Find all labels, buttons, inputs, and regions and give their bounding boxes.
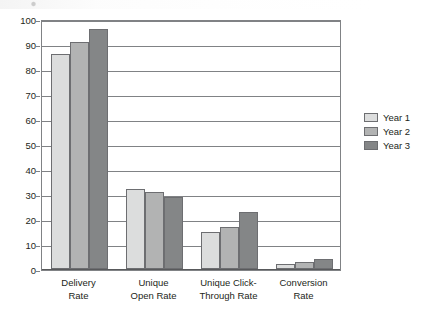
y-axis-tick-label: 10 — [2, 241, 36, 251]
legend-item-label: Year 3 — [383, 140, 410, 151]
y-axis-tick-mark — [36, 196, 40, 197]
y-axis-tick-mark — [36, 146, 40, 147]
y-axis-tick-label: 30 — [2, 191, 36, 201]
bar[interactable] — [145, 192, 164, 270]
bar-group — [126, 19, 183, 269]
bar[interactable] — [239, 212, 258, 270]
bar[interactable] — [314, 259, 333, 269]
scan-artifact — [0, 0, 439, 9]
bar[interactable] — [164, 197, 183, 270]
legend-item-label: Year 1 — [383, 112, 410, 123]
y-axis-tick-mark — [36, 271, 40, 272]
bar-chart-figure: 1009080706050403020100 DeliveryRateUniqu… — [0, 0, 439, 316]
bar[interactable] — [89, 29, 108, 269]
y-axis-tick-label: 100 — [2, 16, 36, 26]
y-axis-tick-label: 70 — [2, 91, 36, 101]
legend-swatch-icon — [364, 127, 378, 136]
bar[interactable] — [51, 54, 70, 269]
y-axis-tick-label: 20 — [2, 216, 36, 226]
bar-group — [276, 19, 333, 269]
y-axis-tick-label: 60 — [2, 116, 36, 126]
bar[interactable] — [126, 189, 145, 269]
bar[interactable] — [295, 262, 314, 270]
bar[interactable] — [220, 227, 239, 270]
y-axis-tick-labels: 1009080706050403020100 — [0, 20, 36, 271]
y-axis-tick-mark — [36, 121, 40, 122]
legend-item[interactable]: Year 3 — [364, 139, 436, 151]
x-axis-label-line: Rate — [258, 290, 349, 303]
legend-swatch-icon — [364, 141, 378, 150]
y-axis-tick-mark — [36, 46, 40, 47]
bar[interactable] — [70, 42, 89, 270]
y-axis-tick-mark — [36, 71, 40, 72]
bar-groups — [42, 21, 340, 270]
chart-legend: Year 1Year 2Year 3 — [364, 111, 436, 153]
legend-item-label: Year 2 — [383, 126, 410, 137]
legend-item[interactable]: Year 1 — [364, 111, 436, 123]
y-axis-tick-mark — [36, 96, 40, 97]
bar-group — [201, 19, 258, 269]
y-axis-tick-label: 0 — [2, 266, 36, 276]
plot-area — [41, 20, 341, 271]
y-axis-tick-mark — [36, 21, 40, 22]
legend-swatch-icon — [364, 113, 378, 122]
y-axis-tick-mark — [36, 246, 40, 247]
y-axis-tick-mark — [36, 171, 40, 172]
y-axis-tick-label: 40 — [2, 166, 36, 176]
x-axis-baseline — [42, 269, 340, 270]
legend-item[interactable]: Year 2 — [364, 125, 436, 137]
y-axis-tick-label: 90 — [2, 41, 36, 51]
x-axis-category-labels: DeliveryRateUniqueOpen RateUnique Click-… — [41, 277, 341, 313]
x-axis-label-line: Conversion — [258, 277, 349, 290]
y-axis-tick-label: 50 — [2, 141, 36, 151]
bar[interactable] — [201, 232, 220, 270]
bar-group — [51, 19, 108, 269]
x-axis-category-label: ConversionRate — [258, 277, 349, 302]
y-axis-tick-mark — [36, 221, 40, 222]
y-axis-tick-label: 80 — [2, 66, 36, 76]
